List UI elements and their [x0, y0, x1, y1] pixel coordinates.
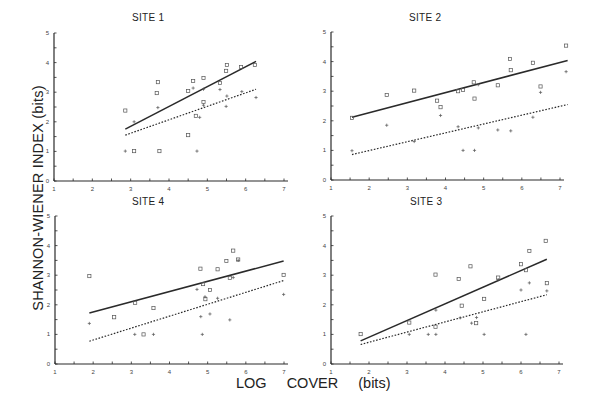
x-tick-label: 6 — [244, 186, 248, 192]
x-tick-label: 4 — [168, 369, 172, 375]
y-tick-label: 3 — [46, 89, 50, 95]
square-marker — [472, 81, 475, 84]
square-marker — [509, 69, 512, 72]
plus-marker — [156, 106, 159, 109]
plus-marker — [434, 333, 437, 336]
y-tick-label: 3 — [47, 272, 51, 278]
square-marker — [496, 84, 499, 87]
plus-marker — [350, 149, 353, 152]
square-marker — [544, 239, 547, 242]
x-tick-label: 4 — [444, 185, 448, 191]
figure: 1234567012345123456701234512345670123451… — [0, 0, 595, 415]
square-marker — [469, 265, 472, 268]
panel-title-site-1: SITE 1 — [132, 12, 164, 23]
plus-marker — [282, 293, 285, 296]
plus-marker — [124, 150, 127, 153]
y-tick-label: 1 — [323, 147, 327, 153]
square-marker — [565, 44, 568, 47]
plus-marker — [237, 259, 240, 262]
y-tick-label: 5 — [323, 29, 327, 35]
x-tick-label: 2 — [91, 186, 95, 192]
square-marker — [187, 89, 190, 92]
square-marker — [439, 106, 442, 109]
square-marker — [545, 282, 548, 285]
y-tick-label: 1 — [323, 331, 327, 337]
panel-site-1: 1234567012345 — [46, 30, 288, 192]
pluses-fit-line — [352, 105, 568, 155]
plus-marker — [539, 91, 542, 94]
square-marker — [528, 249, 531, 252]
square-marker — [434, 273, 437, 276]
y-tick-label: 2 — [46, 119, 50, 125]
square-marker — [359, 333, 362, 336]
plus-marker — [254, 96, 257, 99]
square-marker — [158, 150, 161, 153]
plus-marker — [152, 333, 155, 336]
square-marker — [253, 63, 256, 66]
square-marker — [225, 259, 228, 262]
square-marker — [152, 306, 155, 309]
square-marker — [218, 81, 221, 84]
plus-marker — [470, 322, 473, 325]
panel-title-site-4: SITE 4 — [132, 196, 164, 207]
y-tick-label: 5 — [46, 30, 50, 36]
x-tick-label: 7 — [282, 186, 286, 192]
panel-title-site-2: SITE 2 — [409, 12, 441, 23]
y-tick-label: 3 — [323, 88, 327, 94]
square-marker — [187, 134, 190, 137]
y-tick-label: 4 — [323, 243, 327, 249]
squares-fit-line — [352, 60, 568, 117]
x-tick-label: 1 — [329, 185, 333, 191]
panel-site-3: 1234567012345 — [323, 213, 563, 375]
plus-marker — [208, 312, 211, 315]
y-axis-label: SHANNON-WIENER INDEX (bits) — [30, 85, 46, 310]
plus-marker — [545, 289, 548, 292]
y-tick-label: 1 — [47, 331, 51, 337]
x-tick-label: 6 — [520, 185, 524, 191]
y-tick-label: 4 — [47, 243, 51, 249]
squares-fit-line — [125, 61, 256, 129]
x-tick-label: 5 — [482, 185, 486, 191]
square-marker — [202, 100, 205, 103]
square-marker — [413, 89, 416, 92]
plus-marker — [240, 90, 243, 93]
y-tick-label: 0 — [323, 361, 327, 367]
plus-marker — [473, 149, 476, 152]
plus-marker — [483, 333, 486, 336]
x-tick-label: 3 — [130, 369, 134, 375]
plus-marker — [218, 88, 221, 91]
plus-marker — [531, 116, 534, 119]
y-tick-label: 2 — [47, 302, 51, 308]
plus-marker — [199, 315, 202, 318]
plus-marker — [133, 120, 136, 123]
square-marker — [531, 61, 534, 64]
square-marker — [232, 249, 235, 252]
plus-marker — [195, 150, 198, 153]
y-tick-label: 2 — [323, 118, 327, 124]
square-marker — [457, 277, 460, 280]
plus-marker — [225, 105, 228, 108]
x-tick-label: 5 — [206, 369, 210, 375]
plus-marker — [385, 124, 388, 127]
square-marker — [142, 333, 145, 336]
square-marker — [436, 99, 439, 102]
plus-marker — [456, 125, 459, 128]
square-marker — [473, 97, 476, 100]
plus-marker — [459, 316, 462, 319]
x-tick-label: 7 — [558, 185, 562, 191]
x-tick-label: 2 — [367, 185, 371, 191]
square-marker — [475, 322, 478, 325]
pluses-fit-line — [361, 295, 547, 345]
squares-fit-line — [361, 259, 547, 341]
plus-marker — [477, 126, 480, 129]
y-tick-label: 2 — [323, 302, 327, 308]
square-marker — [194, 114, 197, 117]
square-marker — [156, 81, 159, 84]
x-tick-label: 1 — [53, 369, 57, 375]
y-tick-label: 1 — [46, 148, 50, 154]
plus-marker — [528, 281, 531, 284]
plus-marker — [565, 70, 568, 73]
plus-marker — [408, 333, 411, 336]
plus-marker — [524, 333, 527, 336]
plus-marker — [202, 104, 205, 107]
